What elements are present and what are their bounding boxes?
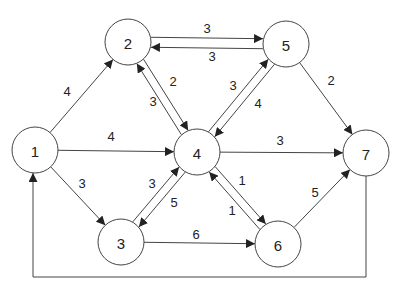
node-3: 3 (98, 219, 144, 265)
edge-arrow-line (144, 242, 255, 243)
edge-weight-label: 4 (254, 96, 261, 111)
node-6: 6 (255, 221, 301, 267)
edge-2-to-5 (151, 37, 263, 38)
edge-weight-label: 6 (192, 227, 199, 242)
edge-weight-label: 5 (170, 195, 177, 210)
edge-arrow-line (300, 63, 353, 135)
edge-weight-label: 1 (238, 173, 245, 188)
node-label: 3 (117, 235, 125, 252)
edge-weight-label: 2 (169, 74, 176, 89)
edge-5-to-4 (215, 64, 275, 137)
nodes-layer: 1234567 (12, 19, 389, 267)
edge-weight-label: 1 (228, 203, 235, 218)
edge-weight-label: 3 (78, 176, 85, 191)
edge-6-to-7 (294, 170, 350, 228)
edge-weight-label: 3 (276, 133, 283, 148)
edge-5-to-2 (151, 47, 263, 48)
node-7: 7 (343, 130, 389, 176)
edge-weight-label: 4 (63, 84, 70, 99)
node-label: 1 (31, 143, 39, 160)
edge-4-to-7 (220, 152, 343, 153)
edge-arrow-line (139, 172, 185, 227)
node-label: 7 (362, 146, 370, 163)
node-label: 2 (124, 35, 132, 52)
edge-3-to-6 (144, 242, 255, 243)
edge-weight-label: 2 (327, 73, 334, 88)
edge-arrow-line (151, 37, 263, 38)
edge-weight-label: 3 (229, 78, 236, 93)
node-5: 5 (263, 21, 309, 67)
node-label: 5 (282, 37, 290, 54)
node-1: 1 (12, 127, 58, 173)
edge-5-to-7 (300, 63, 353, 135)
edge-arrow-line (209, 172, 260, 229)
edge-weight-label: 3 (149, 94, 156, 109)
node-2: 2 (105, 19, 151, 65)
node-label: 6 (274, 237, 282, 254)
edge-1-to-4 (58, 150, 174, 151)
edge-weight-label: 3 (148, 176, 155, 191)
edge-arrow-line (220, 152, 343, 153)
node-4: 4 (174, 129, 220, 175)
edge-arrow-line (215, 64, 275, 137)
edge-4-to-3 (139, 172, 185, 227)
edge-1-to-2 (50, 59, 113, 132)
edge-weight-label: 5 (311, 185, 318, 200)
edge-arrow-line (294, 170, 350, 228)
edge-6-to-4 (209, 172, 260, 229)
graph-diagram: 44333233423356115 1234567 (0, 0, 396, 288)
node-label: 4 (193, 145, 201, 162)
edge-arrow-line (151, 47, 263, 48)
edge-weight-label: 3 (203, 21, 210, 36)
edge-arrow-line (50, 59, 113, 132)
edge-arrow-line (58, 150, 174, 151)
edge-weight-label: 3 (208, 49, 215, 64)
edge-weight-label: 4 (107, 129, 114, 144)
